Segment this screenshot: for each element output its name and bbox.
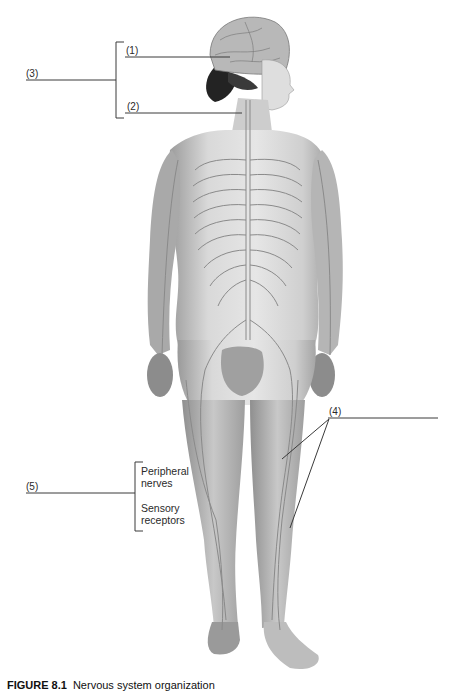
neck xyxy=(232,98,272,132)
right-arm xyxy=(148,150,180,355)
right-hand xyxy=(147,353,173,397)
label-1: (1) xyxy=(126,45,138,56)
label-4: (4) xyxy=(329,406,341,417)
figure-caption-text: Nervous system organization xyxy=(73,679,215,691)
torso xyxy=(169,130,327,345)
figure-number: FIGURE 8.1 xyxy=(7,679,67,691)
left-foot xyxy=(264,622,319,669)
figure-caption: FIGURE 8.1Nervous system organization xyxy=(7,679,215,691)
peripheral-nerves-label: Peripheral nerves xyxy=(141,465,189,489)
label-5: (5) xyxy=(26,481,38,492)
label-2: (2) xyxy=(127,101,139,112)
right-foot xyxy=(208,622,240,654)
sensory-receptors-label: Sensory receptors xyxy=(141,502,185,526)
label-3: (3) xyxy=(26,68,38,79)
